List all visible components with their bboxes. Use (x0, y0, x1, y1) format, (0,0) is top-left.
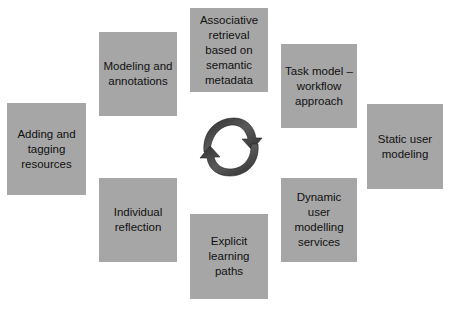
node-associative-retrieval: Associative retrieval based on semantic … (190, 8, 268, 92)
node-explicit-learning-paths: Explicit learning paths (190, 214, 268, 299)
node-label: Static user modeling (371, 132, 439, 162)
node-modeling-annotations: Modeling and annotations (99, 32, 177, 116)
circular-arrows-icon (196, 112, 266, 182)
node-label: Modeling and annotations (103, 59, 173, 89)
node-task-model: Task model – workflow approach (281, 44, 357, 128)
node-label: Explicit learning paths (194, 234, 264, 279)
node-adding-tagging-resources: Adding and tagging resources (7, 103, 86, 195)
node-static-user-modeling: Static user modeling (367, 104, 443, 189)
node-label: Individual reflection (103, 205, 173, 235)
node-label: Task model – workflow approach (285, 64, 353, 109)
node-individual-reflection: Individual reflection (99, 178, 177, 262)
node-label: Dynamic user modelling services (285, 190, 353, 250)
node-label: Associative retrieval based on semantic … (194, 13, 264, 88)
node-dynamic-user-modelling: Dynamic user modelling services (281, 178, 357, 262)
node-label: Adding and tagging resources (11, 127, 82, 172)
